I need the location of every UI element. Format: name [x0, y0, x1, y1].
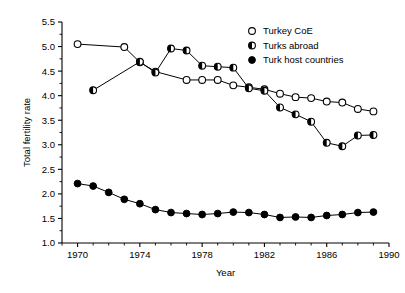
y-tick-label: 2.5	[42, 164, 55, 175]
data-point	[230, 82, 237, 89]
y-tick-label: 3.0	[42, 139, 55, 150]
data-point	[152, 206, 159, 213]
x-tick-label: 1986	[316, 249, 337, 260]
x-tick-label: 1978	[192, 249, 213, 260]
data-point	[90, 183, 97, 190]
y-tick-label: 2.0	[42, 188, 55, 199]
data-point	[121, 196, 128, 203]
y-tick-label: 1.0	[42, 237, 55, 248]
data-point	[292, 214, 299, 221]
data-point	[168, 209, 175, 216]
y-axis-title: Total fertility rate	[21, 98, 32, 167]
data-point	[199, 77, 206, 84]
chart-figure: 1.01.52.02.53.03.54.04.55.05.5 197019741…	[0, 0, 405, 293]
series-turkey-coe	[74, 41, 377, 115]
y-tick-label: 4.5	[42, 66, 55, 77]
data-point	[354, 106, 361, 113]
data-point	[339, 99, 346, 106]
data-point	[308, 214, 315, 221]
data-point	[277, 214, 284, 221]
y-tick-label: 1.5	[42, 213, 55, 224]
legend-marker-0	[249, 28, 256, 35]
data-point	[136, 200, 143, 207]
y-tick-label: 4.0	[42, 90, 55, 101]
data-point	[308, 95, 315, 102]
x-tick-label: 1970	[67, 249, 88, 260]
data-point	[74, 180, 81, 187]
data-point	[230, 209, 237, 216]
data-point	[183, 210, 190, 217]
data-point	[214, 77, 221, 84]
data-point	[121, 44, 128, 51]
y-axis: 1.01.52.02.53.03.54.04.55.05.5	[42, 16, 62, 248]
data-point	[292, 94, 299, 101]
data-point	[339, 211, 346, 218]
legend-label-0: Turkey CoE	[263, 25, 313, 36]
y-tick-label: 3.5	[42, 115, 55, 126]
y-tick-label: 5.0	[42, 41, 55, 52]
x-axis: 197019741978198219861990	[62, 243, 400, 260]
legend-label-2: Turk host countries	[263, 54, 344, 65]
chart-legend: Turkey CoETurks abroadTurk host countrie…	[249, 25, 344, 65]
data-point	[261, 211, 268, 218]
data-point	[370, 209, 377, 216]
legend-label-1: Turks abroad	[263, 40, 319, 51]
data-series-group	[74, 41, 377, 221]
data-point	[74, 41, 81, 48]
x-tick-label: 1982	[254, 249, 275, 260]
chart-canvas: 1.01.52.02.53.03.54.04.55.05.5 197019741…	[0, 0, 405, 293]
series-turk-host-countries	[74, 180, 377, 221]
data-point	[245, 209, 252, 216]
data-point	[323, 212, 330, 219]
data-point	[277, 90, 284, 97]
x-tick-label: 1990	[378, 249, 399, 260]
data-point	[199, 211, 206, 218]
data-point	[323, 98, 330, 105]
x-axis-title: Year	[216, 267, 235, 278]
data-point	[370, 108, 377, 115]
legend-marker-2	[249, 57, 256, 64]
data-point	[183, 77, 190, 84]
data-point	[354, 209, 361, 216]
data-point	[214, 210, 221, 217]
y-tick-label: 5.5	[42, 16, 55, 27]
data-point	[105, 189, 112, 196]
x-tick-label: 1974	[129, 249, 150, 260]
